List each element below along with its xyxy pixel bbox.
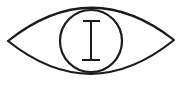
eye-icon (0, 0, 180, 93)
i-beam-glyph (82, 21, 100, 60)
eye-icon-canvas (0, 0, 180, 93)
